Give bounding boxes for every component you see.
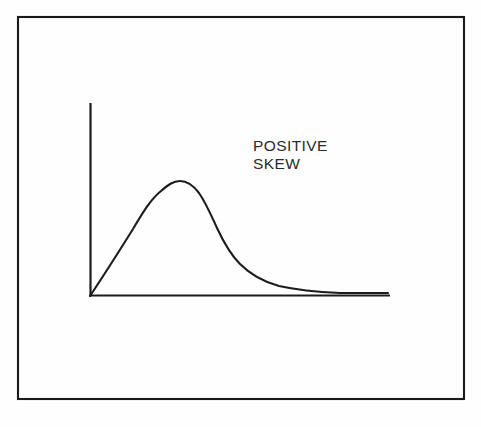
annotation-line-1: POSITIVE bbox=[253, 137, 328, 154]
positive-skew-chart-svg: POSITIVE SKEW bbox=[0, 0, 481, 427]
figure-root: POSITIVE SKEW bbox=[0, 0, 481, 427]
figure-border bbox=[18, 17, 464, 399]
annotation-line-2: SKEW bbox=[253, 155, 300, 172]
positive-skew-curve bbox=[90, 181, 388, 296]
